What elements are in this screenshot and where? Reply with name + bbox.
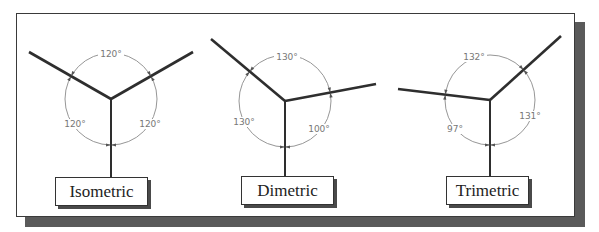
arrowhead-icon [67, 76, 71, 81]
isometric-label: Isometric [55, 177, 148, 206]
trimetric-label: Trimetric [446, 176, 529, 205]
angle-label: 131° [519, 111, 541, 121]
dimetric-label: Dimetric [241, 176, 334, 205]
angle-label: 120° [139, 119, 161, 129]
axis-right [111, 52, 193, 99]
dimetric-axes: 130°130°100° [211, 39, 376, 176]
axis-left [211, 39, 285, 101]
isometric-axes: 120°120°120° [29, 49, 193, 177]
axis-left [29, 52, 111, 99]
angle-label: 130° [276, 52, 298, 62]
trimetric-axes: 132°97°131° [398, 36, 561, 176]
angle-label: 97° [447, 124, 463, 134]
angle-label: 120° [64, 119, 86, 129]
angle-label: 130° [233, 117, 255, 127]
diagram-stage: 120°120°120° 130°130°100° 132°97°131° Is… [0, 0, 599, 232]
axis-right [490, 36, 561, 100]
arrowhead-icon [245, 71, 249, 76]
arrowhead-icon [523, 70, 528, 75]
angle-label: 100° [308, 124, 330, 134]
angle-label: 132° [463, 52, 485, 62]
angle-label: 120° [100, 49, 122, 59]
arrowhead-icon [151, 76, 155, 81]
